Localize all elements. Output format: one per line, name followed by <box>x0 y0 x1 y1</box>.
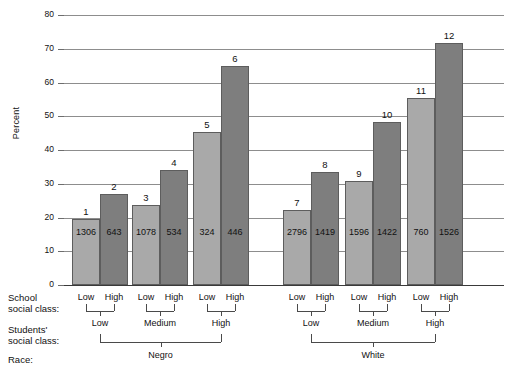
y-tick-mark-10 <box>58 251 64 252</box>
row-label-school-line2: social class: <box>8 303 59 314</box>
bar-index-label-7: 7 <box>282 197 312 208</box>
y-tick-mark-30 <box>58 184 64 185</box>
y-tick-label-10: 10 <box>28 246 54 255</box>
y-tick-label-80: 80 <box>28 10 54 19</box>
row-label-school-line1: School <box>8 292 37 303</box>
y-tick-mark-0 <box>58 285 64 286</box>
bar-3[interactable] <box>132 205 160 285</box>
bar-index-label-11: 11 <box>406 85 436 96</box>
row-label-students-line2: social class: <box>8 335 59 346</box>
row-label-race: Race: <box>8 354 33 365</box>
y-tick-label-40: 40 <box>28 145 54 154</box>
row-label-school-social-class: School social class: <box>8 292 59 314</box>
plot-area: 1130626433107845345324644672796814199159… <box>62 15 504 285</box>
bar-count-label-4: 534 <box>157 227 191 237</box>
bar-index-label-6: 6 <box>220 53 250 64</box>
school-class-label-10: High <box>369 292 405 302</box>
row-label-students-line1: Students' <box>8 324 47 335</box>
bar-6[interactable] <box>221 66 249 285</box>
student-class-label-6: High <box>409 318 461 328</box>
bar-index-label-2: 2 <box>99 181 129 192</box>
school-class-label-4: High <box>156 292 192 302</box>
bar-count-label-12: 1526 <box>432 227 466 237</box>
y-tick-mark-50 <box>58 116 64 117</box>
bar-index-label-4: 4 <box>159 157 189 168</box>
y-tick-label-30: 30 <box>28 179 54 188</box>
y-tick-label-50: 50 <box>28 111 54 120</box>
bar-index-label-5: 5 <box>192 119 222 130</box>
bar-count-label-2: 643 <box>97 227 131 237</box>
y-tick-label-20: 20 <box>28 213 54 222</box>
chart-figure: Percent 11306264331078453453246446727968… <box>0 0 516 375</box>
bar-11[interactable] <box>407 98 435 285</box>
axis-baseline <box>62 285 504 286</box>
gridline-80 <box>62 15 504 16</box>
student-class-label-1: Low <box>74 318 126 328</box>
student-class-label-5: Medium <box>347 318 399 328</box>
bar-index-label-12: 12 <box>434 30 464 41</box>
y-tick-mark-20 <box>58 218 64 219</box>
y-tick-mark-70 <box>58 49 64 50</box>
y-tick-label-60: 60 <box>28 78 54 87</box>
bar-index-label-10: 10 <box>372 109 402 120</box>
bar-count-label-10: 1422 <box>370 227 404 237</box>
row-label-students-social-class: Students' social class: <box>8 324 59 346</box>
school-class-label-12: High <box>431 292 467 302</box>
student-class-label-2: Medium <box>134 318 186 328</box>
y-tick-mark-60 <box>58 83 64 84</box>
y-axis-title: Percent <box>11 83 21 163</box>
y-tick-label-70: 70 <box>28 44 54 53</box>
y-tick-label-0: 0 <box>28 280 54 289</box>
student-class-label-3: High <box>195 318 247 328</box>
bar-12[interactable] <box>435 43 463 285</box>
bar-index-label-8: 8 <box>310 159 340 170</box>
race-label-1: Negro <box>131 350 191 360</box>
y-tick-mark-40 <box>58 150 64 151</box>
y-tick-mark-80 <box>58 15 64 16</box>
race-label-2: White <box>343 350 403 360</box>
student-class-label-4: Low <box>285 318 337 328</box>
bar-index-label-1: 1 <box>71 206 101 217</box>
bar-10[interactable] <box>373 122 401 285</box>
school-class-label-8: High <box>307 292 343 302</box>
bar-5[interactable] <box>193 132 221 285</box>
bar-index-label-9: 9 <box>344 168 374 179</box>
bar-index-label-3: 3 <box>131 192 161 203</box>
school-class-label-6: High <box>217 292 253 302</box>
school-class-label-2: High <box>96 292 132 302</box>
bar-2[interactable] <box>100 194 128 285</box>
bar-count-label-6: 446 <box>218 227 252 237</box>
bar-count-label-8: 1419 <box>308 227 342 237</box>
bar-7[interactable] <box>283 210 311 285</box>
